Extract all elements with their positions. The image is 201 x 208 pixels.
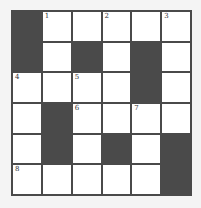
clue-number: 2: [105, 13, 109, 20]
answer-cell[interactable]: [73, 165, 101, 194]
crossword-grid: 12345678: [11, 10, 192, 196]
clue-number: 4: [15, 74, 19, 81]
answer-cell[interactable]: [73, 12, 101, 41]
answer-cell[interactable]: [43, 73, 71, 102]
answer-cell[interactable]: [103, 104, 131, 133]
black-square: [13, 12, 41, 41]
answer-cell[interactable]: 1: [43, 12, 71, 41]
clue-number: 1: [45, 13, 49, 20]
answer-cell[interactable]: 7: [132, 104, 160, 133]
black-square: [103, 135, 131, 164]
answer-cell[interactable]: [162, 43, 190, 72]
black-square: [13, 43, 41, 72]
answer-cell[interactable]: 8: [13, 165, 41, 194]
black-square: [132, 43, 160, 72]
clue-number: 5: [75, 74, 79, 81]
answer-cell[interactable]: [132, 12, 160, 41]
answer-cell[interactable]: [132, 165, 160, 194]
answer-cell[interactable]: [162, 73, 190, 102]
answer-cell[interactable]: 2: [103, 12, 131, 41]
black-square: [43, 135, 71, 164]
answer-cell[interactable]: [132, 135, 160, 164]
answer-cell[interactable]: [43, 43, 71, 72]
black-square: [43, 104, 71, 133]
answer-cell[interactable]: [103, 165, 131, 194]
clue-number: 8: [15, 166, 19, 173]
answer-cell[interactable]: 6: [73, 104, 101, 133]
answer-cell[interactable]: [13, 104, 41, 133]
answer-cell[interactable]: [73, 135, 101, 164]
answer-cell[interactable]: [103, 43, 131, 72]
clue-number: 6: [75, 105, 79, 112]
answer-cell[interactable]: [43, 165, 71, 194]
answer-cell[interactable]: [13, 135, 41, 164]
clue-number: 3: [164, 13, 168, 20]
black-square: [162, 135, 190, 164]
black-square: [162, 165, 190, 194]
black-square: [132, 73, 160, 102]
answer-cell[interactable]: 5: [73, 73, 101, 102]
answer-cell[interactable]: 4: [13, 73, 41, 102]
answer-cell[interactable]: [162, 104, 190, 133]
answer-cell[interactable]: [103, 73, 131, 102]
black-square: [73, 43, 101, 72]
clue-number: 7: [134, 105, 138, 112]
answer-cell[interactable]: 3: [162, 12, 190, 41]
